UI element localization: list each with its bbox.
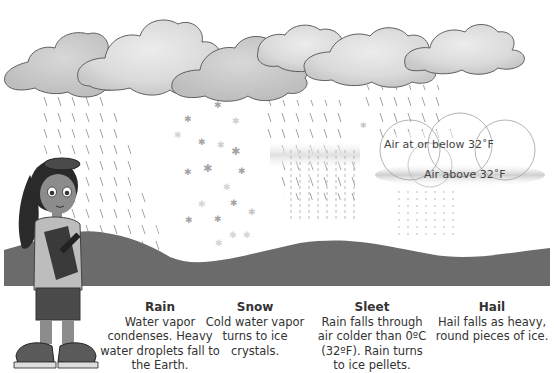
svg-text:✱: ✱ — [238, 166, 246, 176]
svg-text:✱: ✱ — [184, 167, 192, 177]
caption-hail: Hail Hail falls as heavy, round pieces o… — [432, 300, 552, 344]
svg-text:✱: ✱ — [203, 162, 212, 175]
svg-text:✱: ✱ — [223, 182, 231, 192]
svg-text:✱: ✱ — [360, 121, 367, 130]
svg-text:✱: ✱ — [229, 230, 237, 240]
caption-snow-description: Cold water vapor turns to ice crystals. — [202, 315, 308, 359]
svg-text:✱: ✱ — [232, 116, 240, 126]
cold-air-label: Air at or below 32˚F — [384, 138, 494, 151]
svg-text:✱: ✱ — [185, 215, 193, 225]
svg-text:✱: ✱ — [217, 140, 225, 150]
caption-snow-title: Snow — [202, 300, 308, 315]
caption-snow: Snow Cold water vapor turns to ice cryst… — [202, 300, 308, 358]
svg-text:✱: ✱ — [215, 238, 223, 248]
svg-text:✱: ✱ — [198, 199, 206, 209]
svg-text:✱: ✱ — [214, 214, 222, 224]
caption-sleet-title: Sleet — [316, 300, 428, 315]
warm-air-label: Air above 32˚F — [424, 168, 506, 181]
svg-text:✱: ✱ — [214, 100, 222, 110]
svg-text:✱: ✱ — [243, 230, 251, 240]
svg-text:✱: ✱ — [184, 114, 192, 124]
caption-hail-title: Hail — [432, 300, 552, 315]
ground-hill — [4, 231, 550, 286]
clouds — [5, 20, 525, 101]
caption-sleet-description: Rain falls through air colder than 0ºC (… — [316, 315, 428, 373]
svg-text:✱: ✱ — [174, 130, 182, 140]
svg-text:✱: ✱ — [230, 198, 238, 208]
caption-hail-description: Hail falls as heavy, round pieces of ice… — [432, 315, 552, 344]
svg-text:✱: ✱ — [198, 137, 206, 147]
caption-sleet: Sleet Rain falls through air colder than… — [316, 300, 428, 373]
svg-text:✱: ✱ — [248, 207, 256, 217]
svg-text:✱: ✱ — [231, 145, 240, 158]
